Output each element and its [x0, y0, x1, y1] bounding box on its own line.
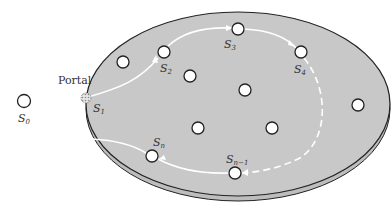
node	[117, 56, 129, 68]
node-s0	[18, 95, 31, 108]
label-s0: S0	[18, 112, 31, 126]
portal-node	[81, 93, 91, 103]
node	[192, 122, 204, 134]
node	[266, 122, 278, 134]
node-sn	[146, 150, 158, 162]
node-s2	[158, 46, 170, 58]
portal-label: Portal	[58, 74, 92, 87]
node	[352, 99, 364, 111]
node-s4	[295, 46, 307, 58]
node-sn-1	[229, 167, 241, 179]
node	[184, 70, 196, 82]
state-diagram: Portal S0 S1 S2 S3 S4 Sn Sn−1	[0, 0, 392, 213]
node	[239, 84, 251, 96]
node-s3	[232, 23, 244, 35]
